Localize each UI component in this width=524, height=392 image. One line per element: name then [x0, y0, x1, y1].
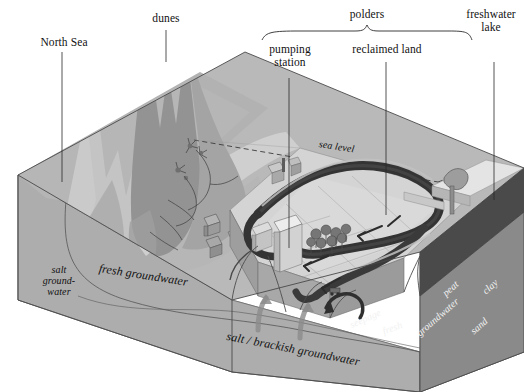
- label-reclaimed-land: reclaimed land: [340, 43, 434, 56]
- label-dunes: dunes: [136, 12, 196, 25]
- polders-brace: [262, 25, 472, 40]
- label-polders: polders: [337, 8, 397, 21]
- label-north-sea: North Sea: [24, 36, 104, 49]
- label-pumping-station: pumping station: [254, 43, 326, 69]
- label-salt-groundwater: salt ground- water: [26, 264, 92, 298]
- label-freshwater-lake: freshwater lake: [458, 8, 524, 34]
- figure-canvas: North Sea dunes polders pumping station …: [0, 0, 524, 392]
